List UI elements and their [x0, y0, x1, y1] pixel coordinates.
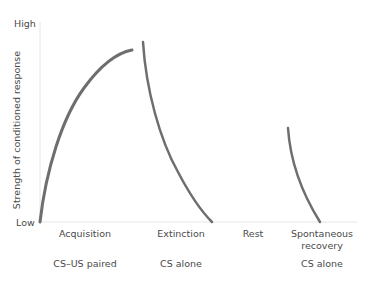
phase-label-spontaneous: Spontaneous — [291, 228, 353, 239]
condition-label-acquisition: CS–US paired — [53, 258, 116, 269]
condition-label-spontaneous: CS alone — [301, 258, 343, 269]
y-tick-high: High — [14, 18, 36, 29]
phase-label-extinction: Extinction — [157, 228, 204, 239]
condition-label-extinction: CS alone — [160, 258, 202, 269]
y-axis-title: Strength of conditioned response — [11, 51, 22, 209]
spontaneous-recovery-curve — [288, 128, 320, 222]
chart: High Low Strength of conditioned respons… — [0, 0, 377, 289]
phase-label-recovery: recovery — [301, 240, 343, 251]
phase-label-acquisition: Acquisition — [59, 228, 111, 239]
y-tick-low: Low — [16, 217, 35, 228]
phase-label-rest: Rest — [243, 228, 264, 239]
extinction-curve — [143, 42, 212, 222]
acquisition-curve — [40, 50, 132, 222]
